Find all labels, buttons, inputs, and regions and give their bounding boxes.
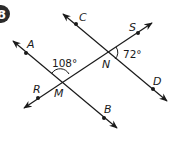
label-s: S — [129, 21, 136, 34]
problem-number-badge: 8 — [0, 5, 10, 23]
angle-arc-m — [52, 69, 69, 74]
label-c: C — [79, 11, 87, 24]
angle-label-m: 108° — [52, 57, 77, 69]
point-b — [102, 116, 106, 120]
label-a: A — [26, 38, 35, 51]
point-c — [74, 22, 78, 26]
line-ab — [13, 41, 117, 128]
label-b: B — [104, 103, 112, 116]
point-a — [24, 51, 28, 55]
label-r: R — [33, 83, 41, 96]
svg-text:8: 8 — [0, 7, 6, 22]
point-s — [136, 31, 140, 35]
point-r — [36, 96, 40, 100]
diagram-canvas: 8 A B C D R S M N 108° 72° — [0, 0, 173, 152]
geometry-figure: 8 A B C D R S M N 108° 72° — [0, 0, 173, 152]
angle-label-n: 72° — [123, 48, 142, 60]
label-d: D — [153, 75, 161, 88]
label-m: M — [54, 87, 64, 100]
label-n: N — [102, 58, 110, 71]
